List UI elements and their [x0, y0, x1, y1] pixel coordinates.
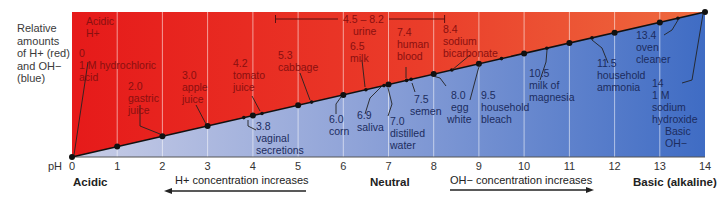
- svg-text:7.4: 7.4: [397, 26, 412, 38]
- basic-corner-label: Basic: [665, 125, 691, 137]
- svg-text:juice: juice: [181, 93, 204, 105]
- svg-text:bicarbonate: bicarbonate: [443, 47, 498, 59]
- svg-text:0: 0: [69, 160, 75, 172]
- svg-text:0: 0: [79, 47, 85, 59]
- oh-minus-arrow-label: OH− concentration increases: [450, 174, 593, 186]
- h-plus-arrow-label: H+ concentration increases: [175, 174, 309, 186]
- svg-text:tomato: tomato: [233, 69, 265, 81]
- svg-text:8.4: 8.4: [443, 23, 458, 35]
- acidic-caption: Acidic: [73, 176, 108, 188]
- svg-text:3.0: 3.0: [182, 69, 197, 81]
- svg-text:magnesia: magnesia: [529, 91, 575, 103]
- svg-text:7.0: 7.0: [390, 115, 405, 127]
- svg-text:10.5: 10.5: [529, 67, 550, 79]
- svg-text:10: 10: [518, 160, 530, 172]
- svg-text:4: 4: [250, 160, 256, 172]
- svg-text:2.0: 2.0: [128, 80, 143, 92]
- oh-minus-corner-label: OH−: [665, 137, 687, 149]
- svg-text:11: 11: [564, 160, 575, 172]
- urine-range: 4.5 – 8.2: [343, 13, 384, 25]
- svg-text:corn: corn: [329, 125, 350, 137]
- svg-text:semen: semen: [410, 105, 442, 117]
- svg-text:sodium: sodium: [652, 101, 686, 113]
- svg-text:vaginal: vaginal: [256, 132, 289, 144]
- ph-ticks: 0 1 2 3 4 5 6 7 8 9 10 11 12 13 14: [69, 160, 711, 172]
- svg-text:14: 14: [652, 77, 664, 89]
- right-arrow: [450, 187, 594, 193]
- svg-text:milk of: milk of: [529, 79, 559, 91]
- svg-text:acid: acid: [79, 71, 98, 83]
- svg-text:13.4: 13.4: [636, 29, 657, 41]
- acidic-corner-label: Acidic: [86, 15, 114, 27]
- svg-text:11.5: 11.5: [597, 57, 617, 69]
- svg-text:6.9: 6.9: [357, 109, 372, 121]
- svg-text:hydroxide: hydroxide: [652, 113, 698, 125]
- svg-text:secretions: secretions: [256, 144, 304, 156]
- svg-text:13: 13: [654, 160, 666, 172]
- svg-text:gastric: gastric: [128, 92, 159, 104]
- svg-text:household: household: [597, 69, 646, 81]
- svg-text:6: 6: [340, 160, 346, 172]
- svg-text:bleach: bleach: [481, 113, 512, 125]
- svg-text:saliva: saliva: [357, 121, 384, 133]
- svg-text:sodium: sodium: [443, 35, 477, 47]
- svg-text:household: household: [481, 101, 530, 113]
- svg-text:white: white: [446, 113, 472, 125]
- svg-text:juice: juice: [232, 81, 255, 93]
- ph-chart: 4.5 – 8.2 urine Acidic H+ Basic OH− 0 1 …: [0, 0, 727, 202]
- svg-text:7.5: 7.5: [414, 93, 429, 105]
- svg-text:12: 12: [608, 160, 620, 172]
- svg-text:9: 9: [476, 160, 482, 172]
- svg-text:6.0: 6.0: [329, 113, 344, 125]
- svg-text:8: 8: [431, 160, 437, 172]
- svg-text:1 M: 1 M: [652, 89, 670, 101]
- svg-text:juice: juice: [127, 104, 150, 116]
- svg-text:ammonia: ammonia: [597, 81, 640, 93]
- svg-text:14: 14: [699, 160, 711, 172]
- svg-text:6.5: 6.5: [350, 40, 365, 52]
- svg-text:5: 5: [295, 160, 301, 172]
- ph-axis-label: pH: [48, 160, 62, 172]
- svg-text:4.2: 4.2: [233, 57, 248, 69]
- svg-text:3: 3: [205, 160, 211, 172]
- svg-text:distilled: distilled: [390, 127, 425, 139]
- svg-text:7: 7: [385, 160, 391, 172]
- svg-text:water: water: [389, 139, 416, 151]
- svg-text:blood: blood: [397, 50, 423, 62]
- svg-text:human: human: [397, 38, 429, 50]
- svg-text:9.5: 9.5: [481, 89, 496, 101]
- h-plus-corner-label: H+: [86, 27, 100, 39]
- svg-text:cleaner: cleaner: [636, 53, 671, 65]
- ph-scale-diagram: Relative amounts of H+ (red) and OH− (bl…: [0, 0, 727, 202]
- svg-text:egg: egg: [451, 101, 469, 113]
- svg-text:oven: oven: [636, 41, 659, 53]
- svg-text:milk: milk: [350, 52, 369, 64]
- svg-text:cabbage: cabbage: [278, 61, 318, 73]
- svg-text:1: 1: [114, 160, 120, 172]
- svg-text:8.0: 8.0: [451, 89, 466, 101]
- svg-text:3.8: 3.8: [256, 120, 271, 132]
- urine-label: urine: [353, 25, 377, 37]
- svg-text:5.3: 5.3: [278, 49, 293, 61]
- left-arrow: [164, 188, 306, 194]
- basic-caption: Basic (alkaline): [633, 176, 717, 188]
- svg-text:1 M hydrochloric: 1 M hydrochloric: [79, 59, 156, 71]
- svg-text:2: 2: [159, 160, 165, 172]
- svg-text:apple: apple: [182, 81, 208, 93]
- neutral-caption: Neutral: [370, 176, 410, 188]
